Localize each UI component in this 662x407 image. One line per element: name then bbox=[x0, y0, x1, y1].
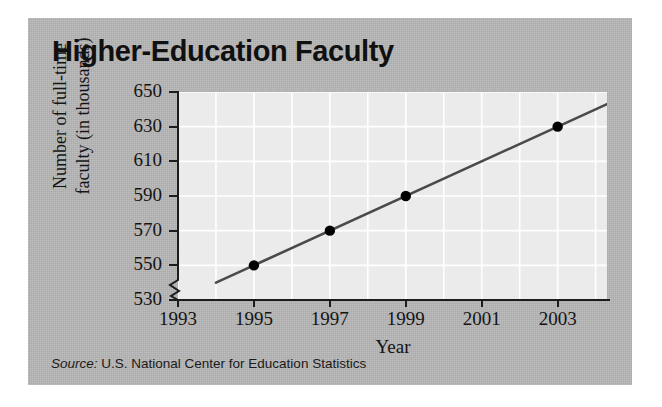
x-tick-mark bbox=[253, 301, 255, 307]
y-tick-mark bbox=[169, 230, 178, 232]
y-tick-label: 550 bbox=[100, 253, 162, 275]
y-tick-mark bbox=[169, 195, 178, 197]
y-tick-label: 570 bbox=[100, 219, 162, 241]
data-point-marker bbox=[249, 260, 259, 270]
y-tick-label: 610 bbox=[100, 149, 162, 171]
y-tick-mark bbox=[169, 264, 178, 266]
data-point-marker bbox=[401, 191, 411, 201]
x-tick-label: 1993 bbox=[143, 308, 213, 330]
x-tick-label: 1995 bbox=[219, 308, 289, 330]
x-axis-title: Year bbox=[178, 336, 608, 358]
x-tick-mark bbox=[481, 301, 483, 307]
y-tick-label: 590 bbox=[100, 184, 162, 206]
y-axis-title-line2: faculty (in thousands) bbox=[73, 38, 93, 195]
y-axis-line bbox=[177, 91, 179, 278]
y-tick-mark bbox=[169, 160, 178, 162]
y-tick-mark bbox=[169, 91, 178, 93]
y-tick-label: 650 bbox=[100, 80, 162, 102]
source-label: Source: bbox=[51, 356, 98, 371]
x-tick-mark bbox=[557, 301, 559, 307]
x-axis-line bbox=[177, 299, 610, 301]
x-tick-label: 1999 bbox=[371, 308, 441, 330]
y-tick-mark bbox=[169, 126, 178, 128]
chart-panel: Higher-Education Faculty 530550570590610… bbox=[28, 18, 632, 385]
data-point-marker bbox=[325, 225, 335, 235]
x-tick-mark bbox=[405, 301, 407, 307]
data-point-marker bbox=[552, 121, 562, 131]
x-tick-mark bbox=[329, 301, 331, 307]
figure-root: Higher-Education Faculty 530550570590610… bbox=[0, 0, 662, 407]
source-note: Source: U.S. National Center for Educati… bbox=[51, 356, 366, 371]
x-tick-mark bbox=[177, 301, 179, 307]
y-tick-label: 530 bbox=[100, 288, 162, 310]
page-title: Higher-Education Faculty bbox=[52, 35, 394, 68]
y-axis-title: Number of full-time faculty (in thousand… bbox=[46, 18, 98, 214]
x-tick-label: 1997 bbox=[295, 308, 365, 330]
source-text: U.S. National Center for Education Stati… bbox=[98, 356, 367, 371]
data-series-line bbox=[178, 92, 607, 300]
x-tick-label: 2001 bbox=[447, 308, 517, 330]
plot-area bbox=[178, 92, 607, 300]
y-axis-break-icon bbox=[167, 274, 183, 302]
y-tick-label: 630 bbox=[100, 115, 162, 137]
x-tick-label: 2003 bbox=[523, 308, 593, 330]
y-axis-title-line1: Number of full-time bbox=[50, 43, 70, 189]
